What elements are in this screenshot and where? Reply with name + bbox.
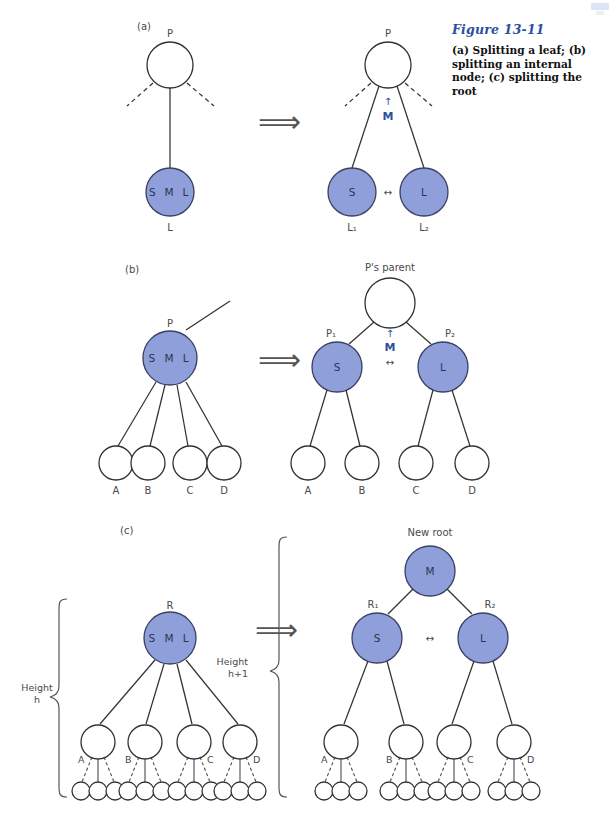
panel-c-before: S M L R A xyxy=(72,600,266,800)
edge-p1-to-b xyxy=(346,390,360,446)
edge-c2-d-g1 xyxy=(498,757,508,782)
edge-dashed-left-2 xyxy=(345,83,371,106)
arrow-glyph-b: ⟹ xyxy=(258,342,301,377)
edge-c-d-g1 xyxy=(224,757,234,782)
edge-dashed-right-2 xyxy=(405,83,432,106)
node-c-leaf xyxy=(248,782,266,800)
panel-b: (b) S M L P A B C D ⟹ xyxy=(99,262,489,496)
node-c2-child-d-label: D xyxy=(527,754,534,765)
node-c2-child-d xyxy=(497,725,531,759)
node-c-root-label: R xyxy=(167,600,174,611)
sibling-arrow-b: ↔ xyxy=(386,357,394,368)
node-c2-child-b xyxy=(389,725,423,759)
node-b-child-b-label: B xyxy=(145,485,152,496)
node-c-leaf xyxy=(214,782,232,800)
node-c-leaf xyxy=(136,782,154,800)
node-c2-child-a xyxy=(324,725,358,759)
node-c-child-b xyxy=(128,725,162,759)
c2-child-group-a: A xyxy=(315,725,367,800)
node-a2-parent-label: P xyxy=(385,28,391,39)
height-label-before-line1: Height xyxy=(21,682,53,693)
edge-r1-to-b xyxy=(387,661,404,724)
node-c-child-c-label: C xyxy=(207,754,214,765)
node-b-p-keys: S M L xyxy=(148,352,191,364)
node-a-parent xyxy=(147,42,193,88)
node-c-child-d xyxy=(223,725,257,759)
arrow-glyph-c: ⟹ xyxy=(255,612,298,647)
c2-child-group-c: C xyxy=(428,725,480,800)
node-b-child-b xyxy=(131,446,165,480)
node-a-leaf-label: L xyxy=(167,222,173,233)
panel-b-after: P's parent ↑ M ↔ S P₁ L P₂ A xyxy=(291,262,489,496)
node-c-child-a xyxy=(81,725,115,759)
node-c-root-keys: S M L xyxy=(148,632,191,644)
node-c2-leaf xyxy=(315,782,333,800)
node-c-child-b-label: B xyxy=(125,754,132,765)
edge-c-c-g1 xyxy=(178,757,188,782)
panel-c-after: New root M S R₁ ↔ L R₂ A xyxy=(315,527,540,800)
edge-c-root-a xyxy=(100,660,155,724)
btree-split-diagram: .ln { stroke:#333333; stroke-width:1.25;… xyxy=(0,0,615,829)
node-c-leaf xyxy=(89,782,107,800)
node-c-child-a-label: A xyxy=(78,754,85,765)
panel-a-transform-arrow: ⟹ xyxy=(258,104,301,139)
arrow-glyph-a: ⟹ xyxy=(258,104,301,139)
edge-p-to-l1 xyxy=(352,86,379,168)
node-c2-r1-key: S xyxy=(374,632,381,644)
edge-c2-c-g1 xyxy=(438,757,448,782)
edge-dashed-right xyxy=(187,83,214,106)
figure-root: Figure 13-11 (a) Splitting a leaf; (b) s… xyxy=(0,0,615,829)
node-c2-leaf xyxy=(397,782,415,800)
node-c2-r2-label: R₂ xyxy=(485,599,496,610)
node-b-p-label: P xyxy=(167,318,173,329)
node-b2-child-b-label: B xyxy=(359,485,366,496)
edge-c2-b-g3 xyxy=(412,757,422,782)
label-new-root: New root xyxy=(407,527,452,538)
node-a2-l1-keys: S xyxy=(349,186,356,198)
edge-p-to-l2 xyxy=(397,86,424,168)
node-b2-child-b xyxy=(345,446,379,480)
node-b2-p1-keys: S xyxy=(334,361,341,373)
edge-b-to-c xyxy=(177,385,188,446)
edge-c-root-c xyxy=(177,664,192,724)
panel-a-before: P S M L L xyxy=(127,28,214,233)
sibling-arrow-a: ↔ xyxy=(384,187,392,198)
edge-newroot-r1 xyxy=(388,589,413,614)
node-b2-child-a-label: A xyxy=(305,485,312,496)
node-c-leaf xyxy=(119,782,137,800)
promoted-key-a: M xyxy=(383,110,394,123)
edge-c-b-g3 xyxy=(151,757,161,782)
panel-c-label: (c) xyxy=(120,525,133,536)
node-a2-l2-label: L₂ xyxy=(419,222,429,233)
edge-p2-to-c xyxy=(418,390,433,446)
node-c-leaf xyxy=(168,782,186,800)
node-c2-leaf xyxy=(522,782,540,800)
node-b2-p1-label: P₁ xyxy=(326,328,336,339)
edge-pp-to-p2 xyxy=(406,322,431,344)
edge-p1-to-a xyxy=(310,390,327,446)
node-c2-leaf xyxy=(505,782,523,800)
node-c2-leaf xyxy=(445,782,463,800)
node-c2-leaf xyxy=(462,782,480,800)
node-b-child-a-label: A xyxy=(113,485,120,496)
edge-b-to-d xyxy=(186,382,222,446)
node-a2-l1-label: L₁ xyxy=(347,222,357,233)
panel-b-label: (b) xyxy=(125,264,139,275)
node-a2-l2-keys: L xyxy=(421,186,427,198)
panel-c-after-height-brace xyxy=(270,537,287,797)
promoted-key-b: M xyxy=(385,341,396,354)
node-c2-child-a-label: A xyxy=(321,754,328,765)
promote-arrow-a: ↑ xyxy=(384,96,392,107)
node-a2-parent xyxy=(365,42,411,88)
node-c2-leaf xyxy=(380,782,398,800)
node-c2-newroot-key: M xyxy=(425,565,434,577)
edge-r2-to-d xyxy=(493,661,512,724)
node-b-child-c xyxy=(173,446,207,480)
edge-newroot-r2 xyxy=(447,589,472,614)
node-c2-child-b-label: B xyxy=(386,754,393,765)
promote-arrow-b: ↑ xyxy=(386,328,394,339)
node-b2-child-a xyxy=(291,446,325,480)
node-b-child-d xyxy=(207,446,241,480)
edge-r2-to-c xyxy=(452,661,474,724)
panel-c-before-height-brace xyxy=(50,599,67,797)
